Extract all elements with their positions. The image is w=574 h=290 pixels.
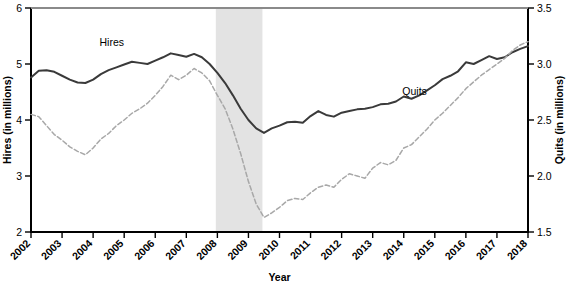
- series-label-quits: Quits: [402, 85, 427, 97]
- x-axis-tick-label: 2017: [473, 237, 498, 262]
- y-axis-tick-label: 4: [16, 114, 22, 126]
- x-axis-tick-label: 2003: [38, 237, 63, 262]
- series-label-hires: Hires: [100, 36, 125, 48]
- x-axis-tick-label: 2011: [287, 237, 312, 262]
- x-axis-tick-label: 2006: [132, 237, 157, 262]
- series-annotations: HiresQuits: [100, 36, 427, 98]
- x-axis-tick-label: 2018: [504, 237, 529, 262]
- y-axis-tick-label: 6: [16, 2, 22, 14]
- tick-labels: 234561.52.02.53.03.520022003200420052006…: [7, 2, 551, 262]
- x-axis-tick-label: 2014: [380, 237, 405, 262]
- x-axis-tick-label: 2009: [225, 237, 250, 262]
- x-axis-title: Year: [268, 271, 290, 283]
- x-axis-tick-label: 2005: [101, 237, 126, 262]
- x-axis-tick-label: 2008: [194, 237, 219, 262]
- y-axis-tick-label: 2: [16, 226, 22, 238]
- shaded-regions: [216, 8, 263, 232]
- series-line-hires: [31, 46, 528, 133]
- chart-figure: 234561.52.02.53.03.520022003200420052006…: [0, 0, 574, 290]
- x-axis-tick-label: 2007: [163, 237, 188, 262]
- y2-axis-title: Quits (in millions): [553, 76, 565, 165]
- y2-axis-tick-label: 1.5: [537, 226, 552, 238]
- y2-axis-tick-label: 3.5: [537, 2, 552, 14]
- x-axis-tick-label: 2010: [256, 237, 281, 262]
- y-axis-tick-label: 5: [16, 58, 22, 70]
- series-line-quits: [31, 42, 528, 218]
- x-axis-tick-label: 2012: [318, 237, 343, 262]
- x-axis-tick-label: 2015: [411, 237, 436, 262]
- y2-axis-tick-label: 2.5: [537, 114, 552, 126]
- y2-axis-tick-label: 2.0: [537, 170, 552, 182]
- y-axis-tick-label: 3: [16, 170, 22, 182]
- data-series: [31, 42, 528, 218]
- x-axis-tick-label: 2013: [349, 237, 374, 262]
- x-axis-tick-label: 2004: [70, 237, 95, 262]
- shaded-region-recession: [216, 8, 263, 232]
- x-axis-tick-label: 2002: [7, 237, 32, 262]
- y-axis-title: Hires (in millions): [1, 76, 13, 164]
- chart-canvas: 234561.52.02.53.03.520022003200420052006…: [0, 0, 574, 290]
- y2-axis-tick-label: 3.0: [537, 58, 552, 70]
- x-axis-tick-label: 2016: [442, 237, 467, 262]
